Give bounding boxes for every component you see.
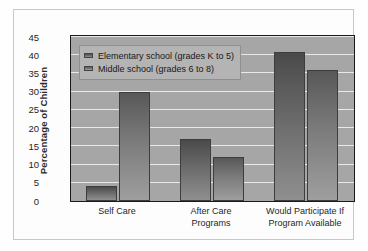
y-axis-tick-label: 40 <box>0 49 39 60</box>
bar <box>274 52 305 201</box>
bar <box>213 157 244 201</box>
bar <box>307 70 338 201</box>
chart-legend: Elementary school (grades K to 5) Middle… <box>79 45 241 80</box>
y-axis-tick-label: 0 <box>0 195 39 206</box>
y-axis-tick-label: 45 <box>0 31 39 42</box>
legend-swatch-icon <box>84 53 93 58</box>
y-axis-tick-label: 25 <box>0 104 39 115</box>
y-axis-tick-label: 15 <box>0 140 39 151</box>
y-axis-tick-label: 30 <box>0 86 39 97</box>
y-axis-tick-label: 20 <box>0 122 39 133</box>
legend-item: Elementary school (grades K to 5) <box>84 49 234 62</box>
plot-area: Elementary school (grades K to 5) Middle… <box>70 35 355 202</box>
figure-frame: Percentage of Children 05101520253035404… <box>13 9 354 240</box>
legend-swatch-icon <box>84 66 93 71</box>
y-axis-tick-label: 10 <box>0 159 39 170</box>
bar <box>86 186 117 201</box>
chart-figure: Percentage of Children 05101520253035404… <box>0 0 368 251</box>
x-axis-tick-label: Would Participate IfProgram Available <box>235 206 368 229</box>
bar <box>180 139 211 201</box>
y-axis-tick-label: 5 <box>0 177 39 188</box>
legend-label: Elementary school (grades K to 5) <box>98 51 234 61</box>
y-axis-title: Percentage of Children <box>38 41 49 201</box>
legend-item: Middle school (grades 6 to 8) <box>84 62 234 75</box>
legend-label: Middle school (grades 6 to 8) <box>98 64 214 74</box>
y-axis-tick-label: 35 <box>0 67 39 78</box>
gridline <box>71 36 354 37</box>
bar <box>119 92 150 201</box>
